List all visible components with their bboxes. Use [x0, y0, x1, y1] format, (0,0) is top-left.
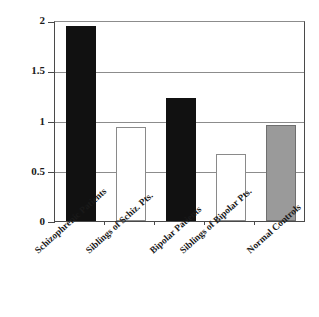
y-axis-labels: 2 1.5 1 0.5 0 — [0, 0, 45, 317]
y-tick-mark-0-5 — [48, 172, 55, 173]
bar-siblings-of-bipolar-pts — [216, 154, 246, 221]
bar-bipolar-patients — [166, 98, 196, 221]
y-tick-mark-1 — [48, 122, 55, 123]
category-separator-4 — [254, 221, 255, 225]
y-tick-label-1-5: 1.5 — [31, 65, 45, 76]
y-tick-mark-0 — [48, 222, 55, 223]
bar-normal-controls — [266, 125, 296, 222]
plot-area — [54, 21, 305, 222]
y-tick-label-0: 0 — [40, 216, 46, 227]
bar-siblings-of-schiz-pts — [116, 127, 146, 222]
y-tick-mark-2 — [48, 22, 55, 23]
y-tick-label-1: 1 — [40, 116, 46, 127]
bar-schizophrenic-patients — [66, 26, 96, 221]
y-tick-mark-1-5 — [48, 72, 55, 73]
category-separator-1 — [104, 221, 105, 225]
bar-chart: 2 1.5 1 0.5 0 Schizophrenic Patients Sib… — [0, 0, 319, 317]
category-separator-2 — [154, 221, 155, 225]
category-separator-3 — [204, 221, 205, 225]
y-tick-label-2: 2 — [40, 15, 46, 26]
y-tick-label-0-5: 0.5 — [31, 166, 45, 177]
